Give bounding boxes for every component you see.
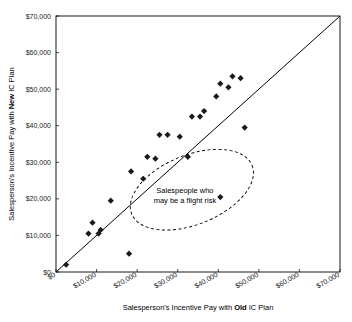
y-axis-title: Salesperson's Incentive Pay with New IC …	[7, 67, 16, 221]
x-axis-tick-label: $30,000	[153, 271, 179, 290]
x-axis-tick-label-group: $30,000	[153, 271, 179, 290]
x-axis-tick-label-group: $50,000	[234, 271, 260, 290]
annotation-line-2: may be a flight risk	[154, 196, 217, 205]
x-axis-title: Salesperson's Incentive Pay with Old IC …	[123, 303, 274, 312]
x-axis-tick-label: $60,000	[275, 271, 301, 290]
y-axis-tick-label: $60,000	[26, 49, 51, 56]
y-axis-tick-label: $10,000	[26, 232, 51, 239]
x-axis-tick-label: $40,000	[193, 271, 219, 290]
chart-canvas: $0$10,000$20,000$30,000$40,000$50,000$60…	[0, 0, 352, 322]
x-axis-tick-label-group: $60,000	[275, 271, 301, 290]
x-axis-tick-label: $10,000	[72, 271, 98, 290]
scatter-chart: $0$10,000$20,000$30,000$40,000$50,000$60…	[0, 0, 352, 322]
y-axis-tick-label: $40,000	[26, 122, 51, 129]
x-axis-tick-label-group: $40,000	[193, 271, 219, 290]
x-axis-tick-label: $50,000	[234, 271, 260, 290]
y-axis-tick-label: $30,000	[26, 159, 51, 166]
annotation-line-1: Salespeople who	[156, 186, 213, 195]
x-axis-tick-label-group: $10,000	[72, 271, 98, 290]
x-axis-tick-label: $20,000	[112, 271, 138, 290]
x-axis-tick-label-group: $20,000	[112, 271, 138, 290]
y-axis-tick-label: $20,000	[26, 195, 51, 202]
x-axis-tick-label-group: $70,000	[315, 271, 341, 290]
y-axis-tick-label: $50,000	[26, 86, 51, 93]
y-axis-title-group: Salesperson's Incentive Pay with New IC …	[7, 67, 16, 221]
x-axis-tick-label: $70,000	[315, 271, 341, 290]
y-axis-tick-label: $70,000	[26, 13, 51, 20]
